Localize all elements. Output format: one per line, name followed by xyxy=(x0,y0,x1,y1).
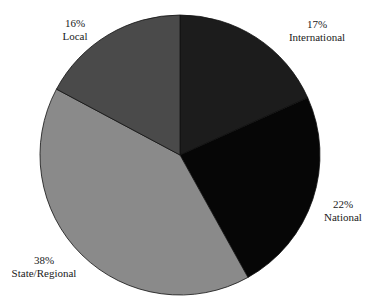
label-state-regional: 38% State/Regional xyxy=(4,254,84,280)
label-local-name: Local xyxy=(55,30,95,43)
label-international-name: International xyxy=(272,31,362,44)
label-state-regional-name: State/Regional xyxy=(4,267,84,280)
label-state-regional-pct: 38% xyxy=(4,254,84,267)
label-local-pct: 16% xyxy=(55,17,95,30)
label-national-name: National xyxy=(318,211,367,224)
label-local: 16% Local xyxy=(55,17,95,43)
label-national-pct: 22% xyxy=(318,198,367,211)
label-international: 17% International xyxy=(272,18,362,44)
label-international-pct: 17% xyxy=(272,18,362,31)
label-national: 22% National xyxy=(318,198,367,224)
